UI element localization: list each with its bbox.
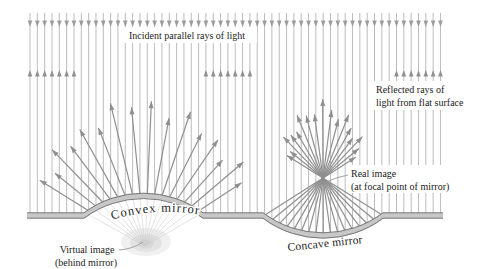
- arrowhead: [94, 21, 99, 28]
- virtual-image-label-line2: (behind mirror): [55, 257, 117, 269]
- arrowhead: [320, 99, 325, 106]
- arrowhead: [438, 21, 443, 28]
- arrowhead: [98, 128, 103, 135]
- arrowhead: [28, 70, 33, 77]
- arrowhead: [57, 70, 62, 77]
- arrowhead: [372, 21, 377, 28]
- arrowhead: [424, 21, 429, 28]
- real-image-label-line1: Real image: [351, 168, 397, 179]
- arrowhead: [313, 114, 318, 121]
- mirror-ray-diagram: Incident parallel rays of light Reflecte…: [0, 0, 496, 269]
- arrowhead: [204, 70, 209, 77]
- arrowhead: [248, 70, 253, 77]
- real-image-label-line2: (at focal point of mirror): [351, 181, 449, 193]
- arrowhead: [431, 70, 436, 77]
- arrowhead: [233, 21, 238, 28]
- arrowhead: [186, 112, 191, 119]
- arrowhead: [248, 21, 253, 28]
- arrowhead: [409, 21, 414, 28]
- arrowhead: [306, 21, 311, 28]
- reflected-flat-label-line1: Reflected rays of: [376, 84, 445, 95]
- ray-line: [55, 173, 96, 206]
- arrowhead: [321, 21, 326, 28]
- arrowhead: [42, 70, 47, 77]
- ray-line: [265, 157, 356, 215]
- arrowhead: [50, 21, 55, 28]
- arrowhead: [35, 70, 40, 77]
- reflected-flat-label-line2: light from flat surface: [376, 97, 464, 108]
- arrowhead: [218, 21, 223, 28]
- arrowhead: [346, 128, 352, 135]
- arrowhead: [277, 21, 282, 28]
- arrowhead: [72, 70, 77, 77]
- arrowhead: [343, 21, 348, 28]
- arrowhead: [196, 21, 201, 28]
- flat-surface-reflected-arrows: [28, 70, 443, 77]
- arrowhead: [255, 21, 260, 28]
- arrowhead: [409, 70, 414, 77]
- arrowhead: [149, 101, 154, 108]
- arrowhead: [160, 21, 165, 28]
- arrowhead: [116, 21, 121, 28]
- arrowhead: [314, 21, 319, 28]
- arrowhead: [212, 140, 218, 147]
- arrowhead: [438, 70, 443, 77]
- arrowhead: [64, 70, 69, 77]
- arrowhead: [72, 21, 77, 28]
- arrowhead: [50, 70, 55, 77]
- arrowhead: [287, 155, 294, 161]
- arrowhead: [358, 21, 363, 28]
- arrowhead: [211, 70, 216, 77]
- arrowhead: [110, 103, 115, 110]
- arrowhead: [387, 21, 392, 28]
- virtual-image-glow: [121, 228, 171, 256]
- arrowhead: [350, 21, 355, 28]
- arrowhead: [240, 21, 245, 28]
- arrowhead: [182, 21, 187, 28]
- virtual-image-label-line1: Virtual image: [60, 244, 115, 255]
- arrowhead: [35, 21, 40, 28]
- arrowhead: [152, 21, 157, 28]
- ray-line: [110, 103, 132, 195]
- arrowhead: [123, 21, 128, 28]
- concave-mirror-label: Concave mirror: [287, 233, 363, 253]
- arrowhead: [218, 70, 223, 77]
- arrowhead: [416, 21, 421, 28]
- arrowhead: [262, 21, 267, 28]
- arrowhead: [284, 21, 289, 28]
- incident-rays-label: Incident parallel rays of light: [129, 30, 245, 41]
- arrowhead: [167, 21, 172, 28]
- arrowhead: [204, 21, 209, 28]
- arrowhead: [240, 70, 245, 77]
- arrowhead: [42, 21, 47, 28]
- arrowhead: [346, 138, 352, 145]
- ray-line: [147, 101, 151, 194]
- arrowhead: [336, 21, 341, 28]
- arrowhead: [28, 21, 33, 28]
- arrowhead: [394, 70, 399, 77]
- arrowhead: [79, 21, 84, 28]
- arrowhead: [57, 21, 62, 28]
- arrowhead: [299, 21, 304, 28]
- arrowhead: [80, 129, 86, 136]
- arrowhead: [189, 21, 194, 28]
- arrowhead: [211, 21, 216, 28]
- arrowhead: [108, 21, 113, 28]
- arrowhead: [380, 21, 385, 28]
- incident-rays: [28, 13, 443, 236]
- arrowhead: [292, 21, 297, 28]
- arrowhead: [348, 157, 355, 163]
- arrowhead: [40, 180, 47, 186]
- arrowhead: [86, 21, 91, 28]
- arrowhead: [431, 21, 436, 28]
- arrowhead: [64, 21, 69, 28]
- arrowhead: [394, 21, 399, 28]
- arrowhead: [402, 70, 407, 77]
- arrowhead: [416, 70, 421, 77]
- arrowhead: [226, 21, 231, 28]
- arrowhead: [334, 119, 339, 126]
- arrowhead: [270, 21, 275, 28]
- arrowhead: [233, 70, 238, 77]
- arrowhead: [130, 21, 135, 28]
- arrowhead: [424, 70, 429, 77]
